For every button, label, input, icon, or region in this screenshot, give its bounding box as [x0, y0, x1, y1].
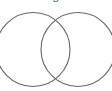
left-circle — [0, 13, 70, 87]
right-circle — [41, 13, 112, 87]
venn-diagram — [0, 0, 112, 91]
